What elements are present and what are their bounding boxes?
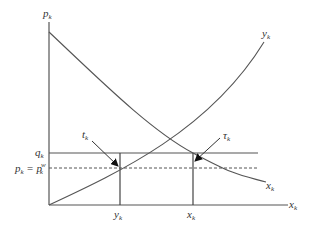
tau-label: τk xyxy=(223,129,231,143)
demand-curve-label: xk xyxy=(265,179,275,193)
x-axis-label: xk xyxy=(288,198,298,212)
q-level-label: qk xyxy=(35,146,45,160)
x-quantity-label: xk xyxy=(186,208,196,222)
tau-arrow xyxy=(195,138,220,161)
y-axis-label: pk xyxy=(42,7,53,21)
demand-curve xyxy=(49,32,266,182)
supply-curve xyxy=(49,42,264,205)
supply-curve-label: yk xyxy=(261,27,271,41)
y-quantity-label: yk xyxy=(113,208,123,222)
supply-demand-diagram: pk xk yk xk qk pk = pwk yk xk tk τk xyxy=(0,0,316,232)
p-level-label: pk = pwk xyxy=(14,161,46,176)
tariff-label: tk xyxy=(82,128,89,142)
